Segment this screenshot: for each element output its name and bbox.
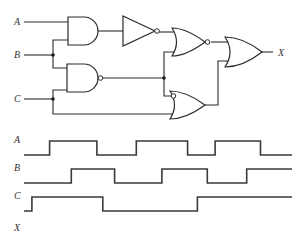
timing-label-x: X	[13, 222, 21, 233]
wire-b-to-nand	[53, 55, 67, 68]
waveform-a	[24, 141, 292, 155]
not-gate	[123, 16, 155, 46]
or-gate-final	[225, 37, 262, 67]
wire-b-to-and	[53, 40, 68, 55]
timing-diagram: A B C X	[13, 134, 292, 233]
wire-c-to-or	[53, 99, 175, 114]
waveform-c	[24, 197, 292, 211]
junction-c	[51, 97, 55, 101]
input-label-c: C	[14, 93, 21, 104]
nor-bubble	[205, 40, 210, 45]
not-bubble	[155, 29, 160, 34]
nor-gate	[172, 28, 205, 56]
waveform-b	[24, 169, 292, 183]
input-label-b: B	[14, 49, 20, 60]
timing-label-c: C	[14, 190, 21, 201]
nand-bubble	[98, 76, 103, 81]
or-input-bubble	[171, 94, 176, 99]
output-label-x: X	[277, 47, 285, 58]
input-label-a: A	[13, 16, 21, 27]
and-gate	[68, 17, 98, 45]
junction-b	[51, 53, 55, 57]
logic-diagram: A B C X A B C X	[0, 0, 305, 244]
wire-c-to-nand	[53, 90, 67, 99]
timing-label-a: A	[13, 134, 21, 145]
junction-nand	[162, 76, 166, 80]
timing-label-b: B	[14, 162, 20, 173]
wire-nand-to-or	[164, 78, 171, 96]
nand-gate	[67, 64, 98, 92]
wire-or-to-or	[205, 61, 229, 105]
